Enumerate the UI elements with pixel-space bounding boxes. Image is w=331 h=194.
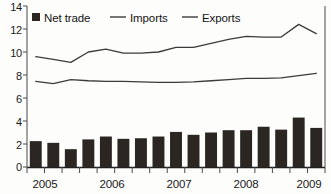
bar (293, 118, 305, 167)
bar (30, 141, 42, 167)
bar (170, 132, 182, 167)
bar (65, 149, 77, 167)
bar (117, 139, 129, 167)
bar (223, 130, 235, 167)
bar (275, 130, 287, 167)
legend-square-marker-icon (32, 13, 40, 21)
bar (240, 130, 252, 167)
bar (82, 139, 94, 167)
plot-area (0, 0, 331, 194)
line-series (36, 24, 316, 62)
bar (205, 133, 217, 168)
line-series (36, 73, 316, 83)
bar (47, 143, 59, 167)
bar (153, 137, 165, 167)
chart-container: 14 12 10 8 6 4 2 0 2005 2006 2007 2008 2… (0, 0, 331, 194)
bar (258, 127, 270, 167)
bar (100, 137, 112, 167)
bar (188, 135, 200, 167)
bar (310, 128, 322, 167)
bar (135, 138, 147, 167)
